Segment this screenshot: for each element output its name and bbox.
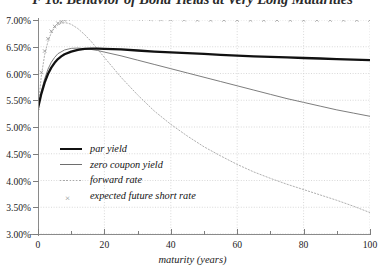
marker-expected-future-short-rate [196,20,199,22]
marker-expected-future-short-rate [63,20,66,22]
y-tick-mark [33,181,39,182]
y-tick-label: 4.00% [6,175,31,186]
x-tick-mark [171,229,172,235]
y-tick-mark [33,47,39,48]
x-tick-label: 0 [36,239,41,250]
marker-expected-future-short-rate [139,20,142,21]
x-axis-title: maturity (years) [0,254,385,265]
legend-swatch-expected-future-short-rate: × [60,188,84,204]
y-tick-mark [33,207,39,208]
legend-label-zero-coupon-yield: zero coupon yield [90,157,163,173]
marker-expected-future-short-rate [275,20,278,22]
y-tick-label: 6.00% [6,68,31,79]
legend-label-par-yield: par yield [90,141,127,157]
chart-legend: par yield zero coupon yield forward rate… [60,141,196,203]
legend-swatch-par-yield [60,141,84,157]
x-tick-mark [304,229,305,235]
marker-expected-future-short-rate [328,20,331,22]
marker-expected-future-short-rate [289,20,292,22]
marker-expected-future-short-rate [66,20,69,21]
y-tick-label: 7.00% [6,15,31,26]
chart-title: F 16. Behavior of Bond Yields at Very Lo… [0,0,385,8]
x-tick-mark-minor [204,231,205,235]
marker-expected-future-short-rate [60,20,63,23]
legend-item-forward-rate[interactable]: forward rate [60,172,196,188]
marker-expected-future-short-rate [209,20,212,22]
legend-swatch-zero-coupon-yield [60,157,84,173]
legend-item-expected-future-short-rate[interactable]: × expected future short rate [60,188,196,204]
series-par-yield [38,49,370,109]
y-axis-ticks: 3.00%3.50%4.00%4.50%5.00%5.50%6.00%6.50%… [0,0,38,273]
y-tick-label: 6.50% [6,41,31,52]
x-tick-label: 100 [363,239,377,250]
y-tick-mark [33,100,39,101]
y-tick-label: 3.50% [6,202,31,213]
x-tick-label: 80 [299,239,309,250]
x-tick-mark-minor [337,231,338,235]
marker-expected-future-short-rate [315,20,318,22]
x-tick-label: 20 [100,239,110,250]
marker-expected-future-short-rate [149,20,152,21]
x-tick-mark-minor [270,231,271,235]
y-tick-label: 3.00% [6,229,31,240]
y-tick-label: 5.00% [6,122,31,133]
y-tick-label: 4.50% [6,148,31,159]
x-tick-label: 60 [232,239,242,250]
x-axis-line [30,234,371,235]
x-tick-mark [370,229,371,235]
x-tick-label: 40 [166,239,176,250]
y-tick-mark [33,127,39,128]
legend-swatch-forward-rate [60,172,84,188]
x-tick-mark [237,229,238,235]
legend-item-zero-coupon-yield[interactable]: zero coupon yield [60,157,196,173]
y-tick-mark [33,154,39,155]
figure-bond-yields: F 16. Behavior of Bond Yields at Very Lo… [0,0,385,273]
y-tick-mark [33,20,39,21]
x-tick-mark-minor [71,231,72,235]
y-tick-mark [33,74,39,75]
legend-label-forward-rate: forward rate [90,172,142,188]
x-tick-mark [38,229,39,235]
x-tick-mark-minor [138,231,139,235]
x-tick-mark [104,229,105,235]
marker-expected-future-short-rate [182,20,185,21]
legend-item-par-yield[interactable]: par yield [60,141,196,157]
series-expected-future-short-rate [38,20,370,110]
legend-label-expected-future-short-rate: expected future short rate [90,188,196,204]
y-tick-label: 5.50% [6,95,31,106]
